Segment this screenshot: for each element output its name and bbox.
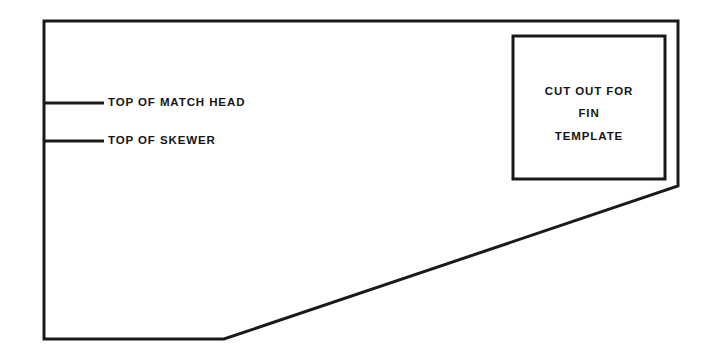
- label-top-of-match-head: TOP OF MATCH HEAD: [108, 96, 245, 108]
- cutout-label-line-1: CUT OUT FOR: [545, 85, 633, 97]
- label-top-of-skewer: TOP OF SKEWER: [108, 134, 216, 146]
- diagram-canvas: CUT OUT FOR FIN TEMPLATE TOP OF MATCH HE…: [0, 0, 709, 363]
- cutout-label-line-2: FIN: [578, 107, 599, 119]
- template-diagram: CUT OUT FOR FIN TEMPLATE TOP OF MATCH HE…: [0, 0, 709, 363]
- cutout-label-line-3: TEMPLATE: [555, 130, 623, 142]
